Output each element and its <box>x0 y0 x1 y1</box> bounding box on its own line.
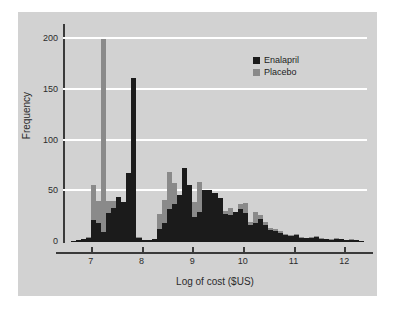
x-tick-9 <box>192 247 194 253</box>
legend-label-placebo: Placebo <box>264 66 297 78</box>
legend-swatch-placebo <box>253 69 260 76</box>
plot-area <box>63 24 367 242</box>
gridline-150 <box>63 88 367 90</box>
bar-enalapril-12.35 <box>359 241 364 242</box>
y-tick-label-100: 100 <box>32 135 58 145</box>
x-tick-11 <box>294 247 296 253</box>
x-tick-8 <box>142 247 144 253</box>
chart-legend: Enalapril Placebo <box>253 54 299 78</box>
x-tick-label-10: 10 <box>228 256 258 266</box>
gridline-100 <box>63 139 367 141</box>
x-tick-10 <box>243 247 245 253</box>
y-axis-label: Frequency <box>21 71 32 161</box>
y-tick-label-200: 200 <box>32 33 58 43</box>
gridline-200 <box>63 37 367 39</box>
x-axis-label: Log of cost ($US) <box>63 276 367 287</box>
x-tick-label-7: 7 <box>76 256 106 266</box>
x-tick-label-11: 11 <box>279 256 309 266</box>
legend-item-placebo: Placebo <box>253 66 299 78</box>
y-tick-label-0: 0 <box>32 236 58 246</box>
x-tick-12 <box>344 247 346 253</box>
x-tick-label-9: 9 <box>177 256 207 266</box>
gridline-50 <box>63 189 367 191</box>
y-tick-label-50: 50 <box>32 185 58 195</box>
bar-enalapril-7.85 <box>131 78 136 242</box>
legend-item-enalapril: Enalapril <box>253 54 299 66</box>
legend-swatch-enalapril <box>253 57 260 64</box>
x-tick-label-12: 12 <box>329 256 359 266</box>
x-tick-label-8: 8 <box>127 256 157 266</box>
x-axis-line <box>56 252 373 254</box>
figure-root: 050100150200 789101112 Frequency Log of … <box>0 0 397 312</box>
y-tick-label-150: 150 <box>32 84 58 94</box>
x-tick-7 <box>91 247 93 253</box>
legend-label-enalapril: Enalapril <box>264 54 299 66</box>
